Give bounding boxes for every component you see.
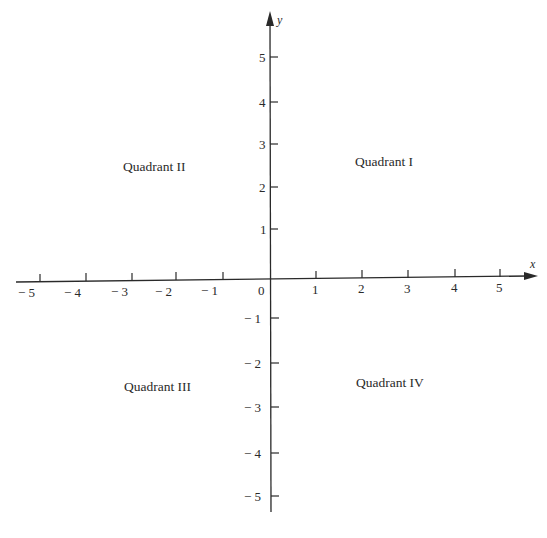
quadrant-iv-label: Quadrant IV xyxy=(356,375,424,390)
y-tick-label: 5 xyxy=(259,50,266,65)
x-tick-label: 5 xyxy=(496,280,503,295)
y-tick-label: − 1 xyxy=(244,311,261,326)
origin-label: 0 xyxy=(258,283,265,298)
y-axis xyxy=(270,20,271,512)
x-tick-label: 3 xyxy=(404,281,411,296)
quadrant-i-label: Quadrant I xyxy=(355,154,414,169)
quadrant-ii-label: Quadrant II xyxy=(123,159,186,174)
y-axis-label: y xyxy=(276,13,283,27)
y-tick-label: 2 xyxy=(259,180,266,195)
y-tick-label: − 3 xyxy=(244,400,261,415)
y-tick-label: 4 xyxy=(259,95,266,110)
y-tick-label: − 2 xyxy=(244,356,261,371)
quadrant-iii-label: Quadrant III xyxy=(124,379,192,394)
y-tick-label: − 4 xyxy=(244,446,262,461)
x-tick-label: − 4 xyxy=(64,285,82,300)
x-tick-label: − 2 xyxy=(155,284,172,299)
x-tick-label: − 3 xyxy=(111,284,128,299)
x-tick-label: − 1 xyxy=(201,283,218,298)
x-tick-label: − 5 xyxy=(18,285,35,300)
x-tick-label: 2 xyxy=(358,281,365,296)
x-tick-label: 1 xyxy=(312,282,319,297)
x-axis-arrow-icon xyxy=(524,272,538,280)
coordinate-plane: x y 0 − 5 − 4 − 3 − 2 − 1 1 2 3 4 5 xyxy=(0,0,547,538)
y-tick-label: 3 xyxy=(259,137,266,152)
x-tick-label: 4 xyxy=(451,280,458,295)
y-tick-label: − 5 xyxy=(244,489,261,504)
x-axis-label: x xyxy=(529,257,536,271)
y-tick-label: 1 xyxy=(260,222,267,237)
y-axis-arrow-icon xyxy=(266,11,274,26)
